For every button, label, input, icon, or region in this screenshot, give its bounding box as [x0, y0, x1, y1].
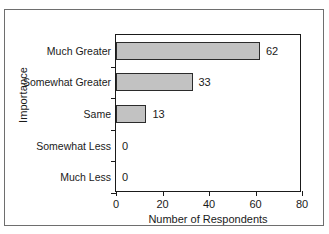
bar-row: Much Greater 62 — [116, 35, 300, 67]
x-tick-label: 20 — [156, 198, 168, 210]
x-tick-label: 40 — [203, 198, 215, 210]
x-axis-title: Number of Respondents — [116, 213, 300, 225]
y-tick-label: Same — [84, 108, 111, 120]
bar-value-label: 0 — [122, 140, 128, 152]
y-axis-tick — [111, 67, 116, 68]
y-tick-label: Much Greater — [47, 45, 111, 57]
bar-value-label: 13 — [153, 108, 165, 120]
bar-somewhat-greater[interactable] — [116, 73, 193, 91]
y-tick-label: Somewhat Less — [36, 140, 111, 152]
y-axis-tick — [111, 161, 116, 162]
y-tick-label: Somewhat Greater — [23, 76, 111, 88]
x-tick-label: 0 — [113, 198, 119, 210]
bar-value-label: 0 — [122, 171, 128, 183]
bar-row: Same 13 — [116, 98, 300, 130]
bar-value-label: 62 — [266, 45, 278, 57]
bar-row: Somewhat Greater 33 — [116, 67, 300, 99]
x-axis-tick — [256, 191, 257, 196]
x-axis-tick — [209, 191, 210, 196]
bar-same[interactable] — [116, 105, 146, 123]
bar-row: Much Less 0 — [116, 161, 300, 193]
y-tick-label: Much Less — [60, 171, 111, 183]
x-tick-label: 60 — [249, 198, 261, 210]
x-tick-label: 80 — [296, 198, 308, 210]
plot-area: Much Greater 62 Somewhat Greater 33 Same… — [115, 34, 301, 192]
y-axis-title: Importance — [17, 35, 29, 155]
bar-value-label: 33 — [199, 76, 211, 88]
x-axis-tick — [302, 191, 303, 196]
y-axis-tick — [111, 130, 116, 131]
bar-row: Somewhat Less 0 — [116, 130, 300, 162]
bar-much-greater[interactable] — [116, 42, 260, 60]
x-axis-tick — [163, 191, 164, 196]
x-axis-tick — [116, 191, 117, 196]
chart-figure: Importance Much Greater 62 Somewhat Grea… — [4, 9, 324, 226]
y-axis-tick — [111, 98, 116, 99]
